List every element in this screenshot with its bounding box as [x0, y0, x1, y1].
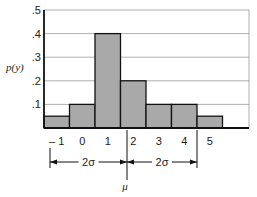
- x-tick-label: 3: [156, 135, 162, 147]
- x-tick-label: 4: [181, 135, 187, 147]
- x-tick-label: – 1: [49, 135, 64, 147]
- bar: [197, 116, 223, 128]
- arrowhead-icon: [127, 160, 134, 165]
- y-axis-label: p(y): [5, 61, 24, 74]
- y-tick-label: .4: [32, 28, 41, 40]
- left-span-label: 2σ: [82, 156, 95, 168]
- histogram-chart: .1.2.3.4.5 – 1012345 p(y) 2σ2σμ: [0, 0, 257, 197]
- bar: [70, 104, 96, 128]
- x-tick-label: 5: [207, 135, 213, 147]
- x-tick-labels: – 1012345: [49, 135, 213, 147]
- arrowhead-icon: [50, 160, 57, 165]
- bar: [44, 116, 70, 128]
- bar: [146, 104, 172, 128]
- sigma-annotations: 2σ2σμ: [50, 130, 197, 192]
- y-tick-labels: .1.2.3.4.5: [32, 4, 41, 110]
- bar: [121, 81, 147, 128]
- bar: [95, 34, 121, 128]
- x-tick-label: 1: [105, 135, 111, 147]
- x-tick-label: 0: [79, 135, 85, 147]
- y-tick-label: .1: [32, 98, 41, 110]
- bar: [172, 104, 198, 128]
- arrowhead-icon: [190, 160, 197, 165]
- right-span-label: 2σ: [156, 156, 169, 168]
- y-tick-label: .3: [32, 51, 41, 63]
- x-tick-label: 2: [130, 135, 136, 147]
- mean-label: μ: [121, 180, 128, 192]
- y-tick-label: .2: [32, 75, 41, 87]
- arrowhead-icon: [120, 160, 127, 165]
- y-tick-label: .5: [32, 4, 41, 16]
